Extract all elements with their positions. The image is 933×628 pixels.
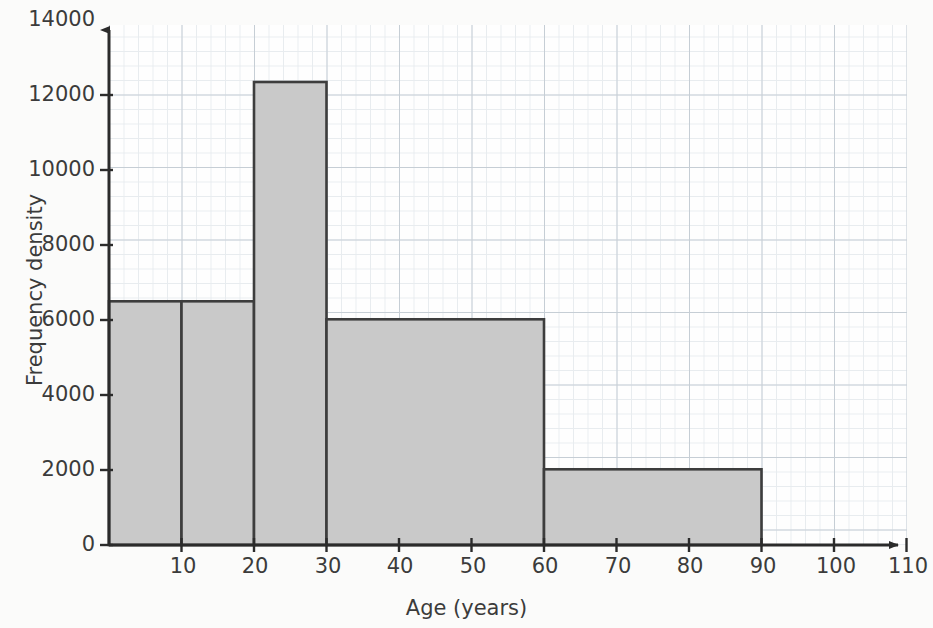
x-tick-label: 60 [532,556,559,577]
x-tick-label: 50 [460,556,487,577]
y-tick-label: 0 [82,534,95,555]
y-tick-label: 14000 [28,9,95,30]
y-tick-label: 4000 [42,384,95,405]
x-axis-title: Age (years) [0,596,933,620]
y-axis-title: Frequency density [23,160,47,420]
x-tick-label: 90 [750,556,777,577]
x-tick-label: 10 [170,556,197,577]
y-tick-label: 6000 [42,309,95,330]
histogram-bar [109,301,182,545]
x-tick-label: 20 [242,556,269,577]
x-tick-label: 100 [816,556,856,577]
y-tick-label: 8000 [42,234,95,255]
x-tick-label: 110 [888,556,928,577]
x-tick-label: 70 [605,556,632,577]
histogram-bars [109,82,762,545]
x-tick-label: 80 [677,556,704,577]
histogram-bar [544,469,762,545]
histogram-figure: 0 2000 4000 6000 8000 10000 12000 14000 … [0,0,933,628]
histogram-bar [182,301,255,545]
y-axis-tick-labels: 0 2000 4000 6000 8000 10000 12000 14000 [0,0,95,628]
histogram-plot [0,0,933,628]
y-tick-label: 12000 [28,84,95,105]
y-tick-label: 2000 [42,459,95,480]
histogram-bar [327,319,545,545]
histogram-bar [254,82,327,545]
x-tick-label: 40 [387,556,414,577]
x-tick-label: 30 [315,556,342,577]
